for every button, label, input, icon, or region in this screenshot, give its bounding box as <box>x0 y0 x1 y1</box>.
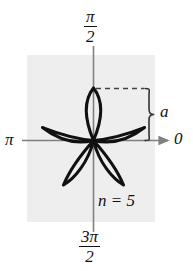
polar-rose-figure: π 2 3π 2 π 0 a n = 5 <box>0 0 193 271</box>
petal-lower-left <box>64 141 94 186</box>
fraction-pi-over-two: π 2 <box>84 8 97 46</box>
fraction-numerator: 3π <box>79 228 100 247</box>
petal-count-value: 5 <box>127 191 136 210</box>
petal-lower-right <box>94 141 124 186</box>
axis-label-zero: 0 <box>174 130 183 147</box>
petal-upper-left <box>42 124 93 145</box>
fraction-denominator: 2 <box>79 247 100 265</box>
fraction-numerator: π <box>84 8 97 27</box>
equals-sign: = <box>111 191 123 210</box>
axis-label-three-pi-over-two: 3π 2 <box>79 228 100 266</box>
fraction-denominator: 2 <box>84 27 97 45</box>
amplitude-label: a <box>160 103 169 120</box>
axis-label-pi-over-two: π 2 <box>84 8 97 46</box>
fraction-three-pi-over-two: 3π 2 <box>79 228 100 266</box>
petal-upper-right <box>93 124 144 145</box>
axis-label-pi: π <box>5 131 14 148</box>
petal-count-symbol: n <box>98 191 107 210</box>
amplitude-brace <box>145 89 154 141</box>
petal-count-label: n = 5 <box>98 192 135 209</box>
